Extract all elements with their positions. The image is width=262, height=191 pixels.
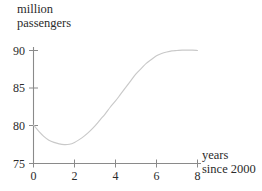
x-axis-title: years since 2000 — [202, 148, 256, 176]
x-axis-title-line2: since 2000 — [202, 162, 256, 176]
x-tick-label-6: 6 — [149, 170, 165, 182]
y-axis-title-line1: million — [17, 2, 71, 16]
y-tick-label-80: 80 — [3, 120, 25, 132]
x-tick-label-4: 4 — [108, 170, 124, 182]
y-tick-label-85: 85 — [3, 82, 25, 94]
y-axis-title: million passengers — [17, 2, 71, 30]
y-axis-title-line2: passengers — [17, 16, 71, 30]
chart-figure: million passengers years since 2000 90 8… — [0, 0, 262, 191]
y-tick-label-75: 75 — [3, 158, 25, 170]
data-series-line — [34, 50, 198, 145]
x-tick-label-0: 0 — [26, 170, 42, 182]
x-tick-label-2: 2 — [67, 170, 83, 182]
x-axis-title-line1: years — [202, 148, 256, 162]
y-tick-label-90: 90 — [3, 45, 25, 57]
x-tick-label-8: 8 — [190, 170, 206, 182]
